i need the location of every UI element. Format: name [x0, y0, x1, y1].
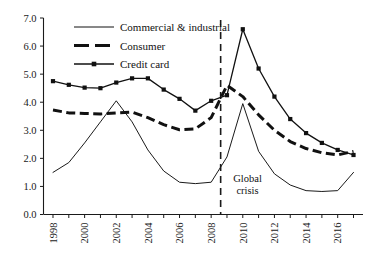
x-tick-label: 2012	[269, 223, 280, 244]
x-tick-label: 2000	[79, 223, 90, 244]
series-marker	[241, 27, 245, 31]
y-tick-label: 2.0	[23, 153, 36, 164]
y-axis: 0.01.02.03.04.05.06.07.0	[23, 13, 43, 221]
legend-label: Commercial & industrial	[120, 21, 230, 33]
series-marker	[336, 148, 340, 152]
series-line-2	[53, 29, 354, 155]
x-tick-label: 2006	[174, 223, 185, 244]
y-tick-label: 5.0	[23, 69, 36, 80]
y-tick-label: 1.0	[23, 181, 36, 192]
series-marker	[146, 76, 150, 80]
legend-item: Credit card	[74, 58, 170, 70]
y-tick-label: 3.0	[23, 125, 36, 136]
series-marker	[177, 97, 181, 101]
series-marker	[257, 66, 261, 70]
series-marker	[51, 79, 55, 83]
y-tick-label: 6.0	[23, 41, 36, 52]
series-marker	[351, 153, 355, 157]
x-tick-label: 2004	[143, 222, 154, 244]
series-marker	[304, 131, 308, 135]
series-marker	[162, 87, 166, 91]
series-marker	[193, 109, 197, 113]
y-tick-label: 4.0	[23, 97, 36, 108]
x-tick-label: 2008	[206, 223, 217, 244]
x-tick-label: 2014	[301, 222, 312, 244]
series-marker	[288, 117, 292, 121]
y-tick-label: 0.0	[23, 209, 36, 220]
series-line-1	[53, 85, 354, 155]
x-tick-label: 2016	[332, 223, 343, 244]
annotation-line-2: crisis	[236, 185, 258, 196]
legend-label: Credit card	[120, 58, 170, 70]
series-marker	[98, 86, 102, 90]
global-crisis-annotation: Globalcrisis	[233, 173, 262, 196]
series-marker	[320, 141, 324, 145]
series-marker	[272, 95, 276, 99]
x-axis-tick-labels: 1998200020022004200620082010201220142016	[48, 222, 344, 244]
annotation-line-1: Global	[233, 173, 262, 184]
legend-swatch-marker	[92, 62, 97, 67]
chart-legend: Commercial & industrialConsumerCredit ca…	[74, 21, 230, 70]
legend-item: Consumer	[74, 40, 166, 52]
series-marker	[83, 86, 87, 90]
series-marker	[225, 93, 229, 97]
legend-label: Consumer	[120, 40, 166, 52]
data-series-group	[51, 27, 356, 191]
y-axis-tick-labels: 0.01.02.03.04.05.06.07.0	[23, 13, 36, 221]
x-tick-label: 2002	[111, 223, 122, 244]
series-marker	[209, 99, 213, 103]
series-marker	[130, 76, 134, 80]
legend-item: Commercial & industrial	[74, 21, 230, 33]
series-marker	[67, 83, 71, 87]
x-tick-label: 2010	[238, 223, 249, 244]
x-axis: 1998200020022004200620082010201220142016	[44, 215, 364, 244]
chart-container: 0.01.02.03.04.05.06.07.0 199820002002200…	[0, 0, 373, 260]
y-tick-label: 7.0	[23, 13, 36, 24]
series-marker	[114, 80, 118, 84]
line-chart: 0.01.02.03.04.05.06.07.0 199820002002200…	[0, 0, 373, 260]
x-tick-label: 1998	[48, 223, 59, 244]
